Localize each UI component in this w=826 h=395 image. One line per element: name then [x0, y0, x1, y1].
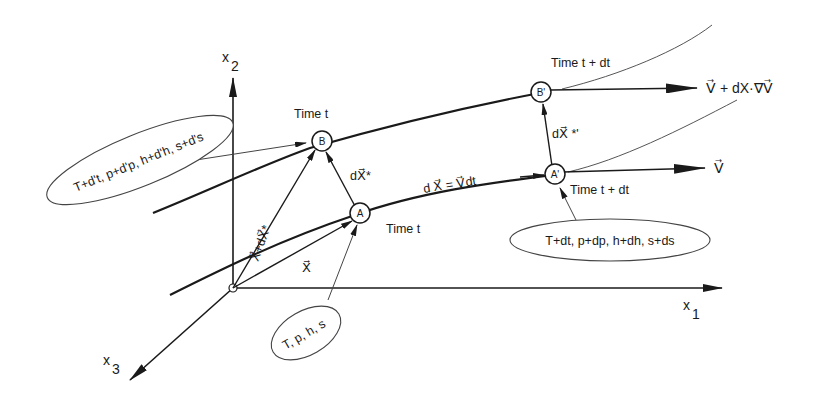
- svg-text:A: A: [357, 208, 364, 219]
- vector-X-label: X⃗: [302, 260, 311, 275]
- node-A: A: [350, 203, 370, 223]
- node-B-prime-time: Time t + dt: [551, 56, 610, 70]
- vector-dX-star-prime: [543, 104, 552, 166]
- ellipse-state-A: T, p, h, s: [262, 295, 350, 371]
- ellipse-state-A-prime: T+dt, p+dp, h+dh, s+ds: [510, 219, 710, 261]
- svg-text:A': A': [551, 169, 560, 180]
- pathline-lower-extension: [568, 100, 737, 172]
- vector-X-plus-dX-star-label: X⃗+dX⃗*: [247, 223, 274, 263]
- vector-dX-eq-Vdt-label: d X⃗ = V⃗dt: [422, 173, 477, 196]
- x3-label: x3: [103, 352, 120, 377]
- velocity-label-lower: V⃗: [714, 159, 724, 176]
- vector-dX-star-label: dX⃗*: [350, 168, 371, 183]
- ellipse-state-B: T+d't, p+d'p, h+d'h, s+d's: [38, 98, 243, 221]
- pathline-lower: [170, 175, 552, 295]
- x3-axis: [130, 288, 233, 380]
- node-B-prime: B': [531, 82, 551, 102]
- velocity-label-upper: V⃗ + dX·∇V⃗: [706, 79, 773, 96]
- svg-text:T+dt, p+dp, h+dh, s+ds: T+dt, p+dp, h+dh, s+ds: [545, 234, 674, 248]
- x1-label: x1: [683, 297, 700, 322]
- vector-dX-star-prime-label: dX⃗ *': [552, 126, 579, 141]
- x2-label: x2: [222, 49, 239, 74]
- axes: x2 x1 x3: [103, 49, 722, 380]
- velocity-arrow-upper: [551, 88, 697, 90]
- pathline-upper: [153, 93, 540, 213]
- node-B: B: [312, 131, 332, 151]
- velocity-arrow-lower: [563, 168, 705, 172]
- node-A-prime: A': [545, 164, 565, 184]
- node-A-time: Time t: [386, 222, 421, 236]
- node-A-prime-time: Time t + dt: [570, 183, 629, 197]
- fluid-particle-diagram: x2 x1 x3 V⃗ + dX·∇V⃗ V⃗ X⃗ X⃗+dX⃗* dX⃗* …: [0, 0, 826, 395]
- node-B-time: Time t: [294, 107, 329, 121]
- svg-text:B: B: [319, 136, 326, 147]
- svg-text:B': B': [537, 87, 546, 98]
